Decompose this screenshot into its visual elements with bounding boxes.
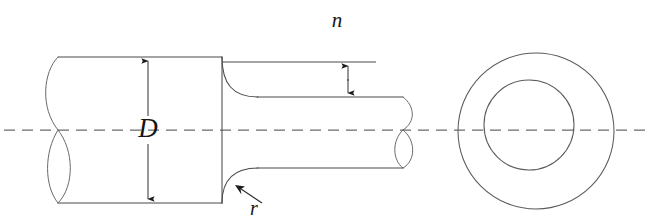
dimension-label-n: n [332, 8, 343, 32]
fillet-upper [222, 57, 258, 97]
shaft-cap-arc-lower-back [395, 130, 403, 168]
flange-cap-arc-lower-front [58, 130, 70, 203]
end-view-inner-circle [484, 80, 574, 170]
shaft-cap-arc-lower-front [403, 130, 413, 168]
leader-arrowhead-r [235, 185, 245, 194]
diagram-canvas: D n r [0, 0, 655, 224]
engineering-diagram: D n r [0, 0, 655, 224]
flange-cap-arc-upper-back [46, 57, 58, 130]
dimension-label-D: D [137, 113, 158, 143]
shaft-cap-arc-upper-front [403, 97, 412, 130]
flange-cap-arc-lower-back [48, 130, 59, 203]
dimension-label-r: r [250, 197, 258, 219]
end-view-outer-circle [458, 53, 614, 209]
